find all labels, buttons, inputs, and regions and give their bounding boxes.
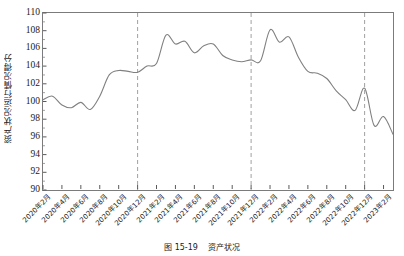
- figure-caption: 图 15-19资产状况: [0, 243, 404, 256]
- figure-asset-condition: 资产状况运行情况得分 9092949698100102104106108110 …: [0, 0, 404, 256]
- x-axis-tick-labels: 2020年2月2020年4月2020年6月2020年8月2020年10月2020…: [0, 0, 404, 256]
- caption-text: 资产状况: [208, 243, 240, 252]
- caption-number: 图 15-19: [164, 243, 198, 252]
